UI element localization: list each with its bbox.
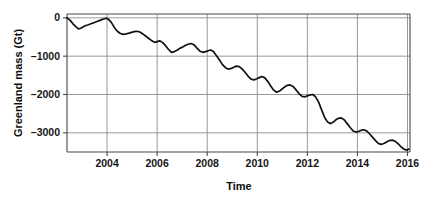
greenland-mass-line-chart: 0–1000–2000–3000 20042006200820102012201… <box>0 0 440 198</box>
chart-figure: 0–1000–2000–3000 20042006200820102012201… <box>0 0 440 198</box>
x-tick-label: 2016 <box>396 157 420 169</box>
y-tick-label: 0 <box>54 11 60 23</box>
x-tick-label: 2006 <box>145 157 169 169</box>
x-axis-tickmarks <box>107 152 407 156</box>
x-tick-label: 2010 <box>246 157 270 169</box>
x-tick-label: 2008 <box>196 157 220 169</box>
x-axis-tick-labels: 2004200620082010201220142016 <box>95 157 419 169</box>
x-tick-label: 2004 <box>95 157 119 169</box>
y-tick-label: –1000 <box>31 50 60 62</box>
x-axis-title: Time <box>226 180 251 192</box>
y-tick-label: –3000 <box>31 126 60 138</box>
y-axis-tickmarks <box>63 18 67 133</box>
y-tick-label: –2000 <box>31 88 60 100</box>
y-axis-title: Greenland mass (Gt) <box>12 29 24 138</box>
x-tick-label: 2012 <box>296 157 320 169</box>
x-tick-label: 2014 <box>346 157 370 169</box>
y-axis-tick-labels: 0–1000–2000–3000 <box>31 11 60 138</box>
